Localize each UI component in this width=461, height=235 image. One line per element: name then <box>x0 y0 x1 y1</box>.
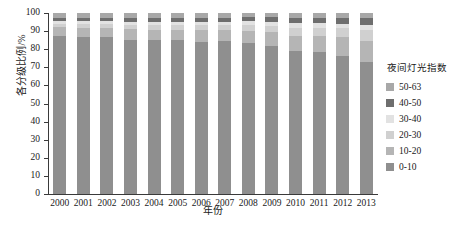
stacked-bar[interactable] <box>171 13 184 194</box>
legend-item[interactable]: 20-30 <box>386 127 461 143</box>
stacked-bar[interactable] <box>265 13 278 194</box>
stacked-bar[interactable] <box>336 13 349 194</box>
bar-segment <box>124 29 137 40</box>
bar-segment <box>53 36 66 194</box>
legend-item[interactable]: 40-50 <box>386 95 461 111</box>
y-tick: 30 <box>44 140 49 141</box>
stacked-bar[interactable] <box>195 13 208 194</box>
stacked-bar[interactable] <box>100 13 113 194</box>
bar-segment <box>265 46 278 194</box>
bar-segment <box>148 30 161 40</box>
bar-segment <box>77 28 90 37</box>
stacked-bar[interactable] <box>148 13 161 194</box>
x-axis-title: 年份 <box>48 205 378 217</box>
y-tick-label: 10 <box>31 169 41 181</box>
bar-segment <box>148 40 161 194</box>
bar-segment <box>360 41 373 62</box>
y-tick-label: 80 <box>31 42 41 54</box>
bar-segment <box>100 28 113 37</box>
bar-segment <box>360 30 373 41</box>
bar-segment <box>53 27 66 35</box>
y-tick: 60 <box>44 85 49 86</box>
bar-segment <box>100 37 113 194</box>
legend-label: 10-20 <box>399 145 421 157</box>
stacked-bar[interactable] <box>313 13 326 194</box>
legend-label: 0-10 <box>399 161 416 173</box>
bar-segment <box>242 43 255 194</box>
legend-swatch-icon <box>386 163 394 171</box>
stacked-bar[interactable] <box>218 13 231 194</box>
legend-label: 30-40 <box>399 113 421 125</box>
legend-item[interactable]: 10-20 <box>386 143 461 159</box>
legend-item[interactable]: 0-10 <box>386 159 461 175</box>
bar-segment <box>313 36 326 52</box>
legend-title: 夜间灯光指数 <box>387 62 461 74</box>
legend-label: 50-63 <box>399 81 421 93</box>
bar-segment <box>313 28 326 36</box>
y-tick: 90 <box>44 31 49 32</box>
y-tick: 0 <box>44 194 49 195</box>
bar-segment <box>289 51 302 194</box>
bar-segment <box>336 28 349 37</box>
x-axis-line <box>48 194 378 195</box>
y-tick-label: 60 <box>31 78 41 90</box>
y-tick: 100 <box>44 13 49 14</box>
y-tick: 10 <box>44 176 49 177</box>
y-tick: 40 <box>44 122 49 123</box>
y-tick-label: 0 <box>35 187 40 199</box>
y-tick-label: 40 <box>31 115 41 127</box>
plot-area: 0102030405060708090100 20002001200220032… <box>48 13 378 194</box>
bar-segment <box>77 37 90 194</box>
bar-segment <box>171 30 184 40</box>
stacked-bar[interactable] <box>53 13 66 194</box>
y-tick-label: 50 <box>31 97 41 109</box>
bar-segment <box>336 56 349 194</box>
legend-item[interactable]: 50-63 <box>386 79 461 95</box>
y-tick-label: 70 <box>31 60 41 72</box>
y-tick-label: 90 <box>31 24 41 36</box>
legend-rows: 50-6340-5030-4020-3010-200-10 <box>386 79 461 175</box>
bar-segment <box>289 36 302 51</box>
y-tick-label: 30 <box>31 133 41 145</box>
legend-swatch-icon <box>386 83 394 91</box>
bar-segment <box>360 62 373 194</box>
y-tick: 20 <box>44 158 49 159</box>
legend-label: 20-30 <box>399 129 421 141</box>
chart-figure: 各分级比例/% 0102030405060708090100 200020012… <box>0 0 461 235</box>
legend-item[interactable]: 30-40 <box>386 111 461 127</box>
y-tick: 80 <box>44 49 49 50</box>
bar-segment <box>336 37 349 55</box>
stacked-bar[interactable] <box>77 13 90 194</box>
stacked-bar[interactable] <box>289 13 302 194</box>
stacked-bar[interactable] <box>360 13 373 194</box>
y-tick-label: 20 <box>31 151 41 163</box>
bar-segment <box>171 40 184 194</box>
bar-segment <box>265 32 278 46</box>
legend-label: 40-50 <box>399 97 421 109</box>
bar-segment <box>195 30 208 42</box>
legend: 夜间灯光指数 50-6340-5030-4020-3010-200-10 <box>386 62 461 175</box>
bar-segment <box>313 52 326 194</box>
legend-swatch-icon <box>386 147 394 155</box>
y-tick-label: 100 <box>26 6 40 18</box>
legend-swatch-icon <box>386 131 394 139</box>
bar-segment <box>124 40 137 194</box>
bar-segment <box>218 30 231 41</box>
legend-swatch-icon <box>386 99 394 107</box>
legend-swatch-icon <box>386 115 394 123</box>
bar-segment <box>195 42 208 194</box>
bar-segment <box>218 41 231 194</box>
bar-segment <box>242 31 255 43</box>
stacked-bar[interactable] <box>124 13 137 194</box>
y-tick: 70 <box>44 67 49 68</box>
y-tick: 50 <box>44 104 49 105</box>
stacked-bar[interactable] <box>242 13 255 194</box>
bar-segment <box>289 28 302 36</box>
y-axis-title: 各分级比例/% <box>17 5 27 125</box>
